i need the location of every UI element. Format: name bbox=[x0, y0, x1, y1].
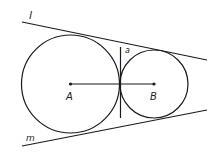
label-line-a: a bbox=[125, 46, 130, 55]
label-line-m: m bbox=[26, 133, 35, 143]
label-line-l: l bbox=[29, 9, 32, 22]
label-center-a: A bbox=[65, 91, 73, 102]
center-point-a bbox=[69, 82, 72, 85]
tangent-line-l bbox=[22, 22, 207, 60]
label-center-b: B bbox=[150, 91, 157, 102]
center-point-b bbox=[152, 82, 155, 85]
diagram-canvas: l m a A B bbox=[0, 0, 213, 156]
